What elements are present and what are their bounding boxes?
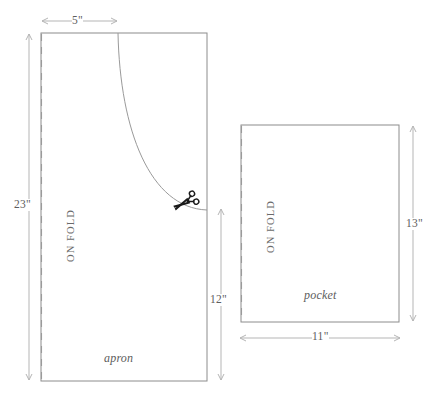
pattern-diagram (0, 0, 441, 393)
dimension-label-height-13: 13" (406, 218, 423, 230)
pocket-fold-label: ON FOLD (266, 200, 277, 253)
apron-outline (41, 33, 207, 381)
dimension-label-height-12: 12" (210, 294, 227, 306)
apron-piece (26, 18, 224, 381)
dimension-label-height-23: 23" (14, 199, 31, 211)
pocket-piece-label: pocket (304, 289, 337, 301)
apron-piece-label: apron (104, 352, 133, 364)
apron-fold-label: ON FOLD (66, 209, 77, 262)
dimension-label-width-11: 11" (312, 331, 329, 343)
dimension-label-width-5: 5" (72, 15, 83, 27)
